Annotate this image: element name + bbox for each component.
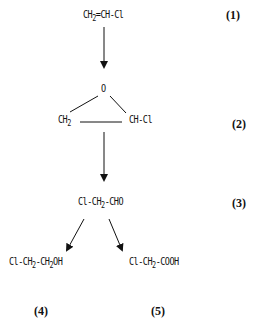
ring-bond-left <box>70 96 98 112</box>
reaction-arrows <box>0 0 255 327</box>
compound-1: CH2=CH-Cl <box>83 9 123 23</box>
compound-3: Cl-CH2-CHO <box>78 196 123 210</box>
compound-2-right: CH-Cl <box>129 114 152 125</box>
compound-5: Cl-CH2-COOH <box>129 256 179 270</box>
compound-3-label: (3) <box>232 196 246 211</box>
compound-5-label: (5) <box>151 304 165 319</box>
compound-2-label: (2) <box>232 117 246 132</box>
compound-4-label: (4) <box>34 304 48 319</box>
compound-4: Cl-CH2-CH2OH <box>9 256 62 270</box>
compound-2-left: CH2 <box>58 114 71 128</box>
compound-2-oxygen: O <box>101 83 106 94</box>
arrow-3-to-5 <box>109 219 122 250</box>
ring-bond-right <box>110 96 126 113</box>
arrow-3-to-4 <box>67 219 84 250</box>
compound-1-label: (1) <box>226 8 240 23</box>
